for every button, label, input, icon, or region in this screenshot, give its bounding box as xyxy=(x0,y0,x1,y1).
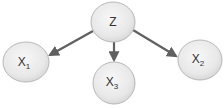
node-x2: X2 xyxy=(178,40,222,80)
node-x3: X3 xyxy=(93,62,135,104)
node-x2-subscript: 2 xyxy=(200,59,205,68)
node-z-label: Z xyxy=(109,15,116,29)
edge-z-to-x2 xyxy=(133,30,176,56)
diagram-canvas: Z X1 X3 X2 xyxy=(0,0,224,108)
edge-z-to-x1 xyxy=(50,31,93,55)
node-x1: X1 xyxy=(3,42,49,82)
node-z: Z xyxy=(91,2,135,42)
node-x1-subscript: 1 xyxy=(26,62,31,71)
node-x3-subscript: 3 xyxy=(114,82,119,91)
